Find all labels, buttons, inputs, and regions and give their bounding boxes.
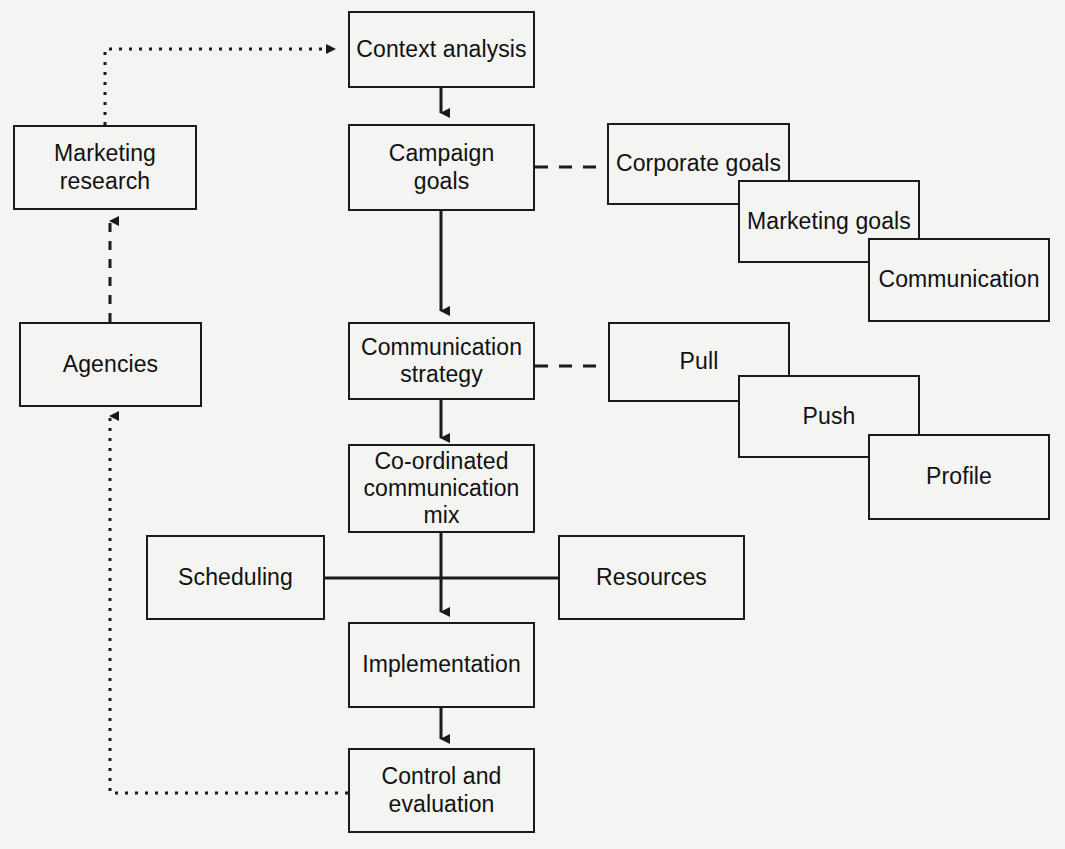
node-control-and-evaluation-label: Control and evaluation [375,763,507,817]
node-resources-label: Resources [590,564,713,591]
node-implementation-label: Implementation [356,651,527,678]
node-marketing-research[interactable]: Marketing research [13,125,197,210]
node-marketing-research-label: Marketing research [48,140,162,194]
node-scheduling-label: Scheduling [172,564,299,591]
node-agencies[interactable]: Agencies [19,322,202,407]
node-control-and-evaluation[interactable]: Control and evaluation [348,748,535,833]
node-campaign-goals[interactable]: Campaign goals [348,124,535,211]
node-coordinated-communication-mix[interactable]: Co-ordinated communication mix [348,444,535,533]
node-context-analysis[interactable]: Context analysis [348,11,535,88]
node-corporate-goals-label: Corporate goals [610,150,787,177]
node-communication-label: Communication [872,266,1045,293]
node-communication-strategy[interactable]: Communication strategy [348,322,535,400]
node-pull-label: Pull [674,348,725,375]
node-agencies-label: Agencies [57,351,164,378]
node-profile-label: Profile [920,463,998,490]
node-context-analysis-label: Context analysis [350,36,532,63]
node-implementation[interactable]: Implementation [348,622,535,708]
node-push-label: Push [797,403,862,430]
node-coordinated-communication-mix-label: Co-ordinated communication mix [358,448,526,529]
node-communication-strategy-label: Communication strategy [355,334,528,388]
node-profile[interactable]: Profile [868,434,1050,520]
node-marketing-goals-label: Marketing goals [741,208,917,235]
node-scheduling[interactable]: Scheduling [146,535,325,620]
node-resources[interactable]: Resources [558,535,745,620]
node-communication[interactable]: Communication [868,238,1050,322]
diagram-canvas: Context analysis Campaign goals Communic… [0,0,1065,849]
connector-marketing-research-to-context-analysis [105,49,335,125]
node-campaign-goals-label: Campaign goals [383,140,501,194]
